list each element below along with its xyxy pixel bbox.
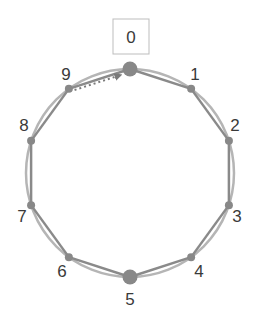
node-5 [123,270,138,285]
node-9 [65,85,73,93]
node-label-4: 4 [194,262,203,281]
node-label-3: 3 [232,207,241,226]
node-4 [187,253,195,261]
node-label-5: 5 [125,290,134,309]
node-label-7: 7 [17,207,26,226]
node-label-6: 6 [57,262,66,281]
node-label-0: 0 [126,28,135,47]
ring-chords [31,69,229,277]
node-0 [123,62,138,77]
node-2 [225,137,233,145]
node-label-9: 9 [61,65,70,84]
node-7 [27,201,35,209]
chord-edge [191,205,229,257]
ring-diagram: 0 1 2 3 4 5 6 7 8 9 [0,0,259,330]
dotted-arrow [75,75,121,90]
node-label-1: 1 [190,65,199,84]
chord-edge [130,69,191,89]
chord-edge [130,257,191,277]
ring-nodes [27,62,233,285]
node-6 [65,253,73,261]
chord-edge [191,89,229,141]
node-8 [27,137,35,145]
ring-arc [26,69,234,277]
chord-edge [31,89,69,141]
node-1 [187,85,195,93]
node-label-8: 8 [19,116,28,135]
chord-edge [69,257,130,277]
chord-edge [31,205,69,257]
chord-edge [69,69,130,89]
node-label-2: 2 [230,116,239,135]
